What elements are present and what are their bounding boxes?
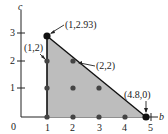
annotation-label: (2,2) [96, 60, 115, 72]
x-tick-label: 1 [45, 122, 50, 133]
vertex-4.8-0 [142, 113, 149, 120]
annotation-label: (4.8,0) [124, 89, 151, 101]
x-tick-label: 5 [148, 122, 153, 133]
y-tick-label: 3 [10, 27, 15, 38]
x-tick-label: 3 [97, 122, 102, 133]
y-axis-label: c [18, 1, 23, 12]
vertex-1-2.93 [43, 32, 50, 39]
x-tick-label: 4 [122, 122, 127, 133]
feasible-region-chart: (1,2.93) (1,2) (2,2) (4.8,0) c b 3 2 1 0… [0, 0, 168, 134]
y-tick-label: 2 [10, 55, 15, 66]
x-tick-label: 2 [70, 122, 75, 133]
origin-label: 0 [11, 121, 16, 132]
x-axis-label: b [159, 111, 164, 122]
y-tick-label: 1 [10, 82, 15, 93]
annotation-label: (1,2) [24, 42, 43, 54]
annotation-label: (1,2.93) [65, 19, 97, 31]
